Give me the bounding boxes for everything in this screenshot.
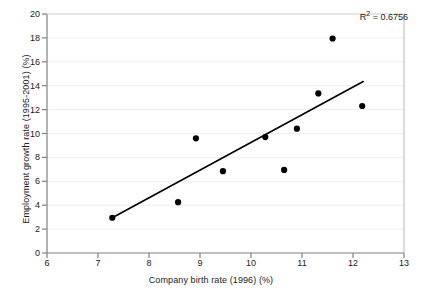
- data-point-0: [109, 215, 115, 221]
- y-axis-ticks: [42, 14, 47, 253]
- x-tick-label-7: 7: [95, 258, 100, 268]
- data-point-9: [359, 103, 365, 109]
- r-squared-annotation: R2 = 0.6756: [360, 10, 408, 22]
- y-axis-title-text: Employment growth rate (1995-2001) (%): [21, 54, 31, 223]
- data-point-6: [294, 126, 300, 132]
- data-point-5: [281, 167, 287, 173]
- data-point-8: [330, 35, 336, 41]
- data-point-1: [175, 199, 181, 205]
- y-tick-label-20: 20: [14, 9, 40, 19]
- x-tick-label-13: 13: [399, 258, 409, 268]
- x-tick-label-11: 11: [297, 258, 306, 268]
- x-axis-title-text: Company birth rate (1996) (%): [149, 275, 273, 285]
- gridlines: [47, 14, 404, 229]
- data-point-3: [220, 168, 226, 174]
- x-tick-label-6: 6: [44, 258, 49, 268]
- x-tick-label-12: 12: [348, 258, 358, 268]
- data-point-7: [315, 90, 321, 96]
- plot-canvas: [0, 0, 422, 297]
- x-tick-label-10: 10: [246, 258, 256, 268]
- x-tick-label-9: 9: [197, 258, 202, 268]
- trend-line: [112, 82, 363, 218]
- x-tick-label-8: 8: [146, 258, 151, 268]
- scatter-chart: 678910111213 02468101214161820 Company b…: [0, 0, 422, 297]
- y-axis-title: Employment growth rate (1995-2001) (%): [15, 19, 33, 259]
- data-point-4: [262, 134, 268, 140]
- data-points: [109, 35, 365, 220]
- x-axis-title: Company birth rate (1996) (%): [0, 275, 422, 285]
- r-squared-value: = 0.6756: [370, 12, 408, 22]
- data-point-2: [193, 135, 199, 141]
